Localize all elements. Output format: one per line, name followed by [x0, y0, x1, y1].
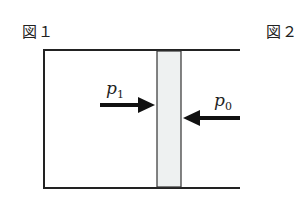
pressure-symbol: p: [106, 78, 117, 98]
cylinder-piston-diagram: [0, 0, 304, 213]
piston: [157, 51, 181, 187]
pressure-symbol: p: [214, 90, 225, 110]
pressure-subscript: 1: [117, 88, 124, 101]
pressure-p1-label: p1: [106, 78, 124, 101]
pressure-p0-label: p0: [214, 90, 232, 113]
pressure-subscript: 0: [225, 100, 232, 113]
